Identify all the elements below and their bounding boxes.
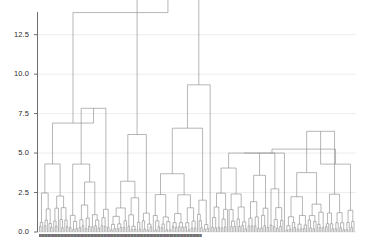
y-axis [34, 12, 38, 232]
y-tick-label-3: 7.5 [3, 110, 29, 118]
leaf-labels-band: IIIIIIIIIIIIIIIIIIIIIIIIIIIIIIIIIIIIIIII… [39, 233, 356, 241]
grid-lines [38, 35, 357, 232]
y-tick-label-0: 0.0 [3, 228, 29, 236]
dendrogram-canvas [0, 0, 370, 247]
dendrogram-chart: 0.0 2.5 5.0 7.5 10.0 12.5 IIIIIIIIIIIIII… [0, 0, 370, 247]
y-tick-label-2: 5.0 [3, 149, 29, 157]
y-tick-label-1: 2.5 [3, 189, 29, 197]
y-tick-label-5: 12.5 [3, 31, 29, 39]
y-tick-label-4: 10.0 [3, 70, 29, 78]
